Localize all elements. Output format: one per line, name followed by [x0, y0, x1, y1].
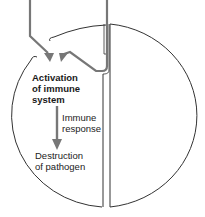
right-input-arrow	[64, 0, 107, 71]
left-arrowhead-icon	[44, 53, 54, 62]
right-arrowhead-icon	[59, 53, 68, 62]
destruction-label: Destruction of pathogen	[35, 150, 85, 172]
left-input-arrow	[30, 0, 48, 53]
immune-response-diagram: Activation of immune system Immune respo…	[0, 0, 205, 217]
activation-label: Activation of immune system	[32, 72, 80, 105]
response-arrowhead-icon	[52, 139, 62, 150]
right-hemisphere-outline	[110, 24, 197, 207]
immune-response-label: Immune response	[62, 112, 101, 134]
channel-outline	[104, 24, 106, 54]
left-hemisphere-top-arc	[50, 25, 107, 41]
diagram-canvas	[0, 0, 205, 217]
